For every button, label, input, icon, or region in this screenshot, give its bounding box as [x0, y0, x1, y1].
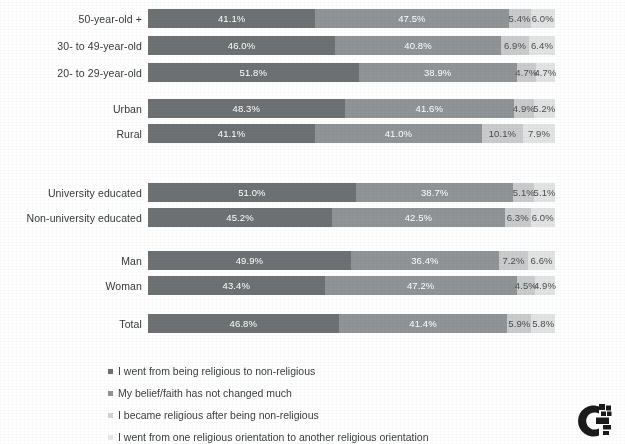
- category-label: Man: [0, 255, 148, 267]
- stacked-bar: 49.9%36.4%7.2%6.6%: [148, 251, 555, 270]
- segment-value-label: 4.7%: [534, 67, 556, 78]
- segment-value-label: 46.8%: [230, 318, 257, 329]
- category-label: Rural: [0, 128, 148, 140]
- stacked-bar: 51.8%38.9%4.7%4.7%: [148, 63, 555, 82]
- segment-value-label: 41.6%: [416, 103, 443, 114]
- legend-label: My belief/faith has not changed much: [118, 387, 292, 399]
- stacked-bar: 46.0%40.8%6.9%6.4%: [148, 36, 555, 55]
- bar-segment: 10.1%: [482, 124, 523, 143]
- segment-value-label: 46.0%: [228, 40, 255, 51]
- segment-value-label: 6.0%: [532, 13, 554, 24]
- segment-value-label: 6.4%: [531, 40, 553, 51]
- segment-value-label: 5.2%: [533, 103, 555, 114]
- segment-value-label: 5.1%: [513, 187, 535, 198]
- segment-value-label: 7.2%: [502, 255, 524, 266]
- bar-segment: 6.0%: [531, 208, 555, 227]
- bar-segment: 46.8%: [148, 314, 339, 333]
- segment-value-label: 48.3%: [233, 103, 260, 114]
- bar-segment: 48.3%: [148, 99, 345, 118]
- chart-row: Non-university educated45.2%42.5%6.3%6.0…: [0, 208, 625, 227]
- bar-segment: 41.6%: [345, 99, 514, 118]
- bar-segment: 36.4%: [351, 251, 499, 270]
- segment-value-label: 47.2%: [407, 280, 434, 291]
- bar-segment: 41.4%: [339, 314, 508, 333]
- legend-item[interactable]: I went from one religious orientation to…: [108, 426, 578, 444]
- legend-label: I became religious after being non-relig…: [118, 409, 319, 421]
- bar-segment: 5.1%: [513, 183, 534, 202]
- bar-segment: 47.2%: [325, 276, 517, 295]
- bar-segment: 6.3%: [505, 208, 531, 227]
- category-label: Non-university educated: [0, 212, 148, 224]
- stacked-bar: 43.4%47.2%4.5%4.9%: [148, 276, 555, 295]
- category-label: Woman: [0, 280, 148, 292]
- legend-label: I went from being religious to non-relig…: [118, 365, 315, 377]
- segment-value-label: 51.8%: [240, 67, 267, 78]
- stacked-bar: 41.1%47.5%5.4%6.0%: [148, 9, 555, 28]
- segment-value-label: 6.6%: [531, 255, 553, 266]
- legend-item[interactable]: I became religious after being non-relig…: [108, 404, 578, 426]
- segment-value-label: 41.4%: [409, 318, 436, 329]
- stacked-bar: 41.1%41.0%10.1%7.9%: [148, 124, 555, 143]
- bar-segment: 42.5%: [332, 208, 505, 227]
- bar-segment: 49.9%: [148, 251, 351, 270]
- bar-segment: 7.9%: [523, 124, 555, 143]
- g-mark-logo: [569, 400, 615, 442]
- segment-value-label: 36.4%: [411, 255, 438, 266]
- bar-segment: 41.1%: [148, 124, 315, 143]
- legend-label: I went from one religious orientation to…: [118, 431, 429, 443]
- segment-value-label: 4.9%: [534, 280, 556, 291]
- stacked-bar: 46.8%41.4%5.9%5.8%: [148, 314, 555, 333]
- chart-row: 30- to 49-year-old46.0%40.8%6.9%6.4%: [0, 36, 625, 55]
- bar-segment: 45.2%: [148, 208, 332, 227]
- bar-segment: 5.4%: [509, 9, 531, 28]
- bar-segment: 38.7%: [356, 183, 514, 202]
- bar-segment: 6.6%: [528, 251, 555, 270]
- segment-value-label: 5.1%: [534, 187, 556, 198]
- bar-segment: 51.0%: [148, 183, 356, 202]
- legend-item[interactable]: I went from being religious to non-relig…: [108, 360, 578, 382]
- segment-value-label: 45.2%: [226, 212, 253, 223]
- category-label: 30- to 49-year-old: [0, 40, 148, 52]
- chart-row: Rural41.1%41.0%10.1%7.9%: [0, 124, 625, 143]
- bar-segment: 6.9%: [501, 36, 529, 55]
- stacked-bar-chart: 50-year-old +41.1%47.5%5.4%6.0%30- to 49…: [0, 0, 625, 444]
- legend-item[interactable]: My belief/faith has not changed much: [108, 382, 578, 404]
- segment-value-label: 43.4%: [223, 280, 250, 291]
- legend-swatch-icon: [108, 391, 113, 396]
- bar-segment: 4.7%: [517, 63, 536, 82]
- segment-value-label: 40.8%: [404, 40, 431, 51]
- bar-segment: 5.1%: [534, 183, 555, 202]
- segment-value-label: 4.9%: [513, 103, 535, 114]
- segment-value-label: 5.8%: [532, 318, 554, 329]
- bar-segment: 46.0%: [148, 36, 335, 55]
- segment-value-label: 38.7%: [421, 187, 448, 198]
- segment-value-label: 6.3%: [507, 212, 529, 223]
- bar-segment: 7.2%: [499, 251, 528, 270]
- category-label: 50-year-old +: [0, 13, 148, 25]
- bar-segment: 4.5%: [517, 276, 535, 295]
- chart-row: Total46.8%41.4%5.9%5.8%: [0, 314, 625, 333]
- chart-row: University educated51.0%38.7%5.1%5.1%: [0, 183, 625, 202]
- chart-row: Man49.9%36.4%7.2%6.6%: [0, 251, 625, 270]
- category-label: University educated: [0, 187, 148, 199]
- segment-value-label: 6.9%: [504, 40, 526, 51]
- bar-segment: 6.4%: [529, 36, 555, 55]
- category-label: Total: [0, 318, 148, 330]
- segment-value-label: 41.1%: [218, 128, 245, 139]
- segment-value-label: 6.0%: [532, 212, 554, 223]
- bar-segment: 38.9%: [359, 63, 517, 82]
- bar-segment: 51.8%: [148, 63, 359, 82]
- bar-segment: 4.7%: [536, 63, 555, 82]
- chart-legend: I went from being religious to non-relig…: [108, 360, 578, 444]
- stacked-bar: 48.3%41.6%4.9%5.2%: [148, 99, 555, 118]
- legend-swatch-icon: [108, 413, 113, 418]
- category-label: 20- to 29-year-old: [0, 67, 148, 79]
- legend-swatch-icon: [108, 435, 113, 440]
- category-label: Urban: [0, 103, 148, 115]
- bar-segment: 41.0%: [315, 124, 482, 143]
- bar-segment: 47.5%: [315, 9, 508, 28]
- bar-segment: 40.8%: [335, 36, 501, 55]
- segment-value-label: 10.1%: [489, 128, 516, 139]
- stacked-bar: 45.2%42.5%6.3%6.0%: [148, 208, 555, 227]
- bar-segment: 6.0%: [531, 9, 555, 28]
